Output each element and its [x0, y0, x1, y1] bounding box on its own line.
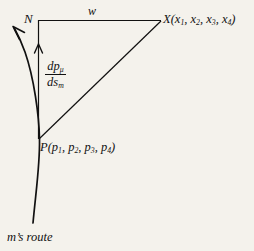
- route-arrow-icon: [13, 27, 25, 40]
- label-vertex-x: X(x1, x2, x3, x4): [163, 13, 235, 26]
- caption-route-text: ’s route: [16, 230, 52, 244]
- label-vertex-x-name: X: [163, 12, 171, 26]
- label-vertex-n: N: [24, 12, 33, 25]
- diagram-canvas: [0, 0, 254, 251]
- label-side-w: w: [88, 5, 96, 17]
- label-vertex-p-args: (p1, p2, p3, p4): [48, 140, 116, 154]
- caption-route: m’s route: [7, 231, 53, 244]
- label-vertex-p-name: P: [40, 140, 48, 154]
- label-momentum-derivative: dpμ dsm: [45, 60, 66, 90]
- derivative-numerator: dpμ: [45, 60, 66, 74]
- caption-route-symbol: m: [7, 230, 16, 244]
- label-vertex-p: P(p1, p2, p3, p4): [40, 141, 115, 154]
- route-curve: [15, 29, 40, 224]
- label-vertex-x-args: (x1, x2, x3, x4): [171, 12, 236, 26]
- derivative-denominator: dsm: [45, 75, 66, 89]
- derivative-numerator-subscript: μ: [60, 65, 64, 74]
- derivative-denominator-subscript: m: [58, 81, 64, 90]
